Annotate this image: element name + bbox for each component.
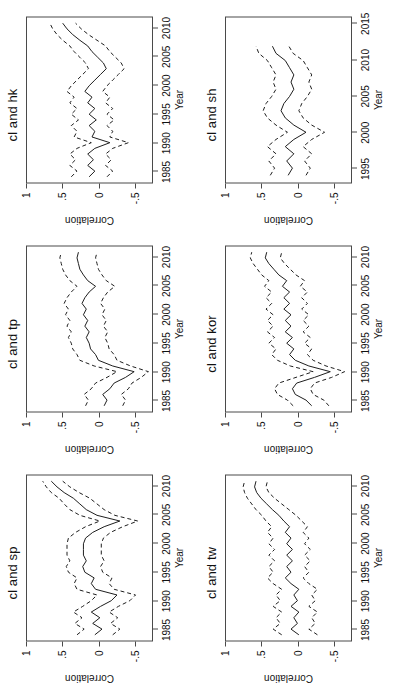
y-tick — [135, 183, 136, 188]
x-tick-label: 2005 — [161, 45, 172, 67]
y-tick-label: 1 — [220, 192, 231, 198]
x-axis-title: Year — [174, 474, 185, 641]
y-axis-title-text: Correlation — [264, 443, 313, 454]
plot-panel-cl-and-tp: cl and tp1985199019952000200520101.50-.5… — [0, 229, 199, 458]
x-tick-label: 2000 — [161, 74, 172, 96]
plot-area — [26, 474, 153, 641]
x-tick-label: 2000 — [161, 532, 172, 554]
x-tick — [352, 131, 357, 132]
y-tick — [261, 641, 262, 646]
x-tick-label: 1995 — [360, 332, 371, 354]
y-tick-label: 0 — [93, 421, 104, 427]
y-tick — [261, 183, 262, 188]
plot-title: cl and hk — [6, 0, 20, 229]
x-tick — [352, 628, 357, 629]
y-tick — [225, 641, 226, 646]
x-tick-label: 2000 — [161, 303, 172, 325]
series-upper — [50, 23, 91, 177]
x-tick-label: 2010 — [360, 474, 371, 496]
x-tick-label: 2010 — [360, 245, 371, 267]
y-tick — [334, 412, 335, 417]
y-tick-label: .5 — [57, 192, 68, 200]
y-tick-label: 1 — [220, 421, 231, 427]
x-tick — [153, 55, 158, 56]
plot-panel-cl-and-sh: cl and sh199520002005201020151.50-.5Year… — [199, 0, 398, 229]
plot-title: cl and sp — [6, 458, 20, 687]
plot-title: cl and tw — [205, 458, 219, 687]
x-tick — [153, 399, 158, 400]
y-axis-title: Correlation — [225, 213, 352, 227]
y-tick-label: -.5 — [129, 192, 140, 204]
plot-area — [225, 16, 352, 183]
x-tick — [352, 22, 357, 23]
x-axis-title: Year — [174, 16, 185, 183]
x-tick-label: 2000 — [360, 532, 371, 554]
y-tick-label: .5 — [57, 421, 68, 429]
series-canvas — [27, 17, 152, 182]
x-tick-label: 1990 — [360, 361, 371, 383]
series-canvas — [226, 246, 351, 411]
y-tick-label: -.5 — [129, 650, 140, 662]
x-tick-label: 1990 — [161, 361, 172, 383]
y-axis-title: Correlation — [225, 671, 352, 685]
y-tick — [26, 641, 27, 646]
x-tick — [352, 167, 357, 168]
series-canvas — [226, 475, 351, 640]
x-tick — [352, 342, 357, 343]
series-mean — [272, 46, 306, 175]
y-tick — [298, 412, 299, 417]
y-tick-label: .5 — [256, 192, 267, 200]
y-tick-label: .5 — [256, 650, 267, 658]
y-tick — [298, 183, 299, 188]
y-tick — [99, 183, 100, 188]
y-axis-title-text: Correlation — [65, 214, 114, 225]
y-tick-label: 0 — [292, 650, 303, 656]
y-tick-label: 1 — [21, 421, 32, 427]
plot-area — [26, 245, 153, 412]
x-tick-label: 1995 — [360, 157, 371, 179]
y-tick-label: 0 — [292, 192, 303, 198]
y-axis-title-text: Correlation — [264, 214, 313, 225]
x-tick — [352, 371, 357, 372]
y-tick — [99, 412, 100, 417]
y-tick-label: -.5 — [328, 421, 339, 433]
x-tick — [352, 399, 357, 400]
x-tick — [352, 59, 357, 60]
x-tick — [352, 513, 357, 514]
x-tick — [352, 600, 357, 601]
y-tick — [225, 412, 226, 417]
plot-area — [225, 474, 352, 641]
series-upper — [243, 481, 282, 635]
series-mean — [265, 252, 330, 406]
x-tick — [153, 485, 158, 486]
plot-panel-cl-and-hk: cl and hk1985199019952000200520101.50-.5… — [0, 0, 199, 229]
x-tick-label: 1985 — [360, 618, 371, 640]
x-tick — [153, 170, 158, 171]
x-tick-label: 1985 — [360, 389, 371, 411]
x-tick-label: 2010 — [161, 474, 172, 496]
x-tick — [153, 628, 158, 629]
y-tick-label: 1 — [21, 650, 32, 656]
x-tick — [153, 571, 158, 572]
x-tick-label: 2005 — [161, 274, 172, 296]
x-tick-label: 1990 — [161, 590, 172, 612]
y-tick — [225, 183, 226, 188]
series-canvas — [226, 17, 351, 182]
x-tick-label: 1995 — [360, 561, 371, 583]
x-tick — [352, 256, 357, 257]
y-tick — [334, 641, 335, 646]
series-lower — [63, 481, 138, 635]
x-tick — [153, 542, 158, 543]
x-tick — [153, 313, 158, 314]
x-tick-label: 2015 — [360, 12, 371, 34]
y-tick — [62, 641, 63, 646]
x-tick-label: 1995 — [161, 561, 172, 583]
x-tick-label: 1985 — [161, 618, 172, 640]
x-tick — [153, 27, 158, 28]
y-tick-label: 0 — [93, 650, 104, 656]
y-axis-title-text: Correlation — [65, 672, 114, 683]
y-tick — [261, 412, 262, 417]
x-tick-label: 2000 — [360, 121, 371, 143]
plot-panel-cl-and-tw: cl and tw1985199019952000200520101.50-.5… — [199, 458, 398, 687]
series-lower — [266, 481, 317, 635]
